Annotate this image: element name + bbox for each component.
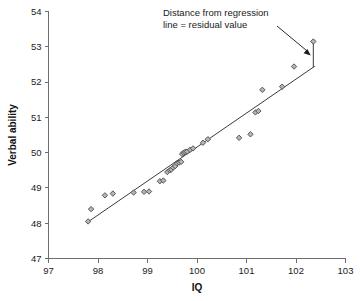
y-tick-label: 48: [31, 218, 42, 229]
y-axis-ticks: 4748495051525354: [31, 6, 49, 264]
data-point-marker: [248, 132, 253, 137]
data-point-marker: [236, 135, 241, 140]
chart-canvas: 4748495051525354 979899100101102103 Dist…: [0, 0, 360, 301]
x-tick-label: 102: [288, 265, 304, 276]
data-point-marker: [110, 191, 115, 196]
y-tick-label: 50: [31, 147, 42, 158]
x-tick-label: 101: [239, 265, 255, 276]
x-tick-label: 100: [189, 265, 205, 276]
data-points: [85, 39, 316, 224]
annotation-line-1: Distance from regression: [163, 7, 269, 18]
x-axis-ticks: 979899100101102103: [43, 259, 353, 276]
data-point-marker: [85, 219, 90, 224]
y-tick-label: 47: [31, 253, 42, 264]
y-tick-label: 53: [31, 41, 42, 52]
y-tick-label: 52: [31, 76, 42, 87]
y-tick-label: 49: [31, 182, 42, 193]
y-axis-title: Verbal ability: [7, 104, 18, 166]
annotation-group: Distance from regression line = residual…: [163, 7, 311, 56]
data-point-marker: [141, 189, 146, 194]
x-axis-title: IQ: [192, 282, 203, 293]
annotation-arrowhead: [304, 49, 311, 56]
x-tick-label: 99: [142, 265, 153, 276]
data-point-marker: [260, 87, 265, 92]
regression-line: [87, 66, 315, 222]
data-point-marker: [88, 206, 93, 211]
y-tick-label: 54: [31, 6, 42, 17]
data-point-marker: [146, 189, 151, 194]
annotation-line-2: line = residual value: [163, 19, 247, 30]
annotation-leader-line: [277, 26, 308, 52]
y-tick-label: 51: [31, 112, 42, 123]
data-point-marker: [102, 193, 107, 198]
scatter-chart: 4748495051525354 979899100101102103 Dist…: [0, 0, 360, 301]
x-tick-label: 97: [43, 265, 54, 276]
data-point-marker: [131, 190, 136, 195]
x-tick-label: 98: [93, 265, 104, 276]
data-point-marker: [291, 64, 296, 69]
data-point-marker: [311, 39, 316, 44]
x-tick-label: 103: [338, 265, 354, 276]
data-point-marker: [279, 84, 284, 89]
